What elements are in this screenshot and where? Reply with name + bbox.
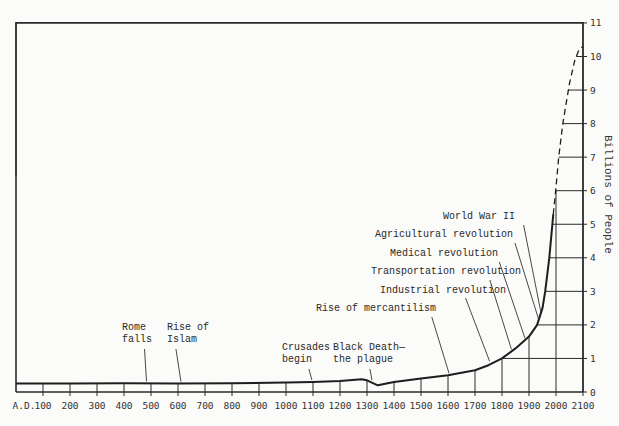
- annotation-leader-line: [176, 349, 181, 382]
- annotation-label: Romefalls: [122, 322, 152, 345]
- annotation-label: Industrial revolution: [380, 285, 506, 296]
- x-tick-label: 1400: [383, 400, 406, 411]
- x-tick-label: 1300: [356, 400, 379, 411]
- y-tick-label: 6: [590, 185, 596, 196]
- x-tick-label: 1000: [275, 400, 298, 411]
- x-tick-label: 900: [250, 400, 267, 411]
- y-axis-label: Billions of People: [602, 135, 614, 254]
- x-tick-label: 1200: [329, 400, 352, 411]
- y-tick-label: 10: [590, 51, 602, 62]
- y-tick-label: 11: [590, 17, 602, 28]
- annotation-label: Crusadesbegin: [282, 342, 330, 365]
- annotation-leader-line: [466, 298, 490, 361]
- x-axis: A.D.100200300400500600700800900100011001…: [13, 392, 595, 411]
- x-tick-label: A.D.: [13, 400, 36, 411]
- x-tick-label: 2100: [572, 400, 595, 411]
- x-tick-label: 400: [115, 400, 132, 411]
- x-tick-label: 1700: [464, 400, 487, 411]
- population-chart: RomefallsRise ofIslamCrusadesbeginBlack …: [0, 0, 619, 426]
- annotations: RomefallsRise ofIslamCrusadesbeginBlack …: [122, 211, 541, 382]
- x-tick-label: 2000: [545, 400, 568, 411]
- x-tick-label: 1900: [518, 400, 541, 411]
- y-tick-label: 1: [590, 353, 596, 364]
- annotation-label: World War II: [443, 211, 515, 222]
- x-tick-label: 300: [88, 400, 105, 411]
- annotation-label: Rise of mercantilism: [316, 303, 436, 314]
- annotation-label: Medical revolution: [390, 248, 498, 259]
- x-tick-label: 500: [142, 400, 159, 411]
- y-axis: 01234567891011: [583, 17, 602, 397]
- x-tick-label: 1600: [437, 400, 460, 411]
- annotation-label: Rise ofIslam: [167, 322, 209, 345]
- chart-frame: [16, 23, 583, 392]
- x-tick-label: 700: [196, 400, 213, 411]
- y-tick-label: 5: [590, 219, 596, 230]
- annotation-label: Transportation revolution: [371, 266, 521, 277]
- x-tick-label: 100: [34, 400, 51, 411]
- y-tick-label: 4: [590, 252, 596, 263]
- annotation-leader-line: [309, 369, 312, 380]
- x-tick-label: 1800: [491, 400, 514, 411]
- annotation-label: Black Death—the plague: [333, 342, 406, 365]
- y-tick-label: 2: [590, 319, 596, 330]
- y-tick-label: 0: [590, 387, 596, 398]
- y-tick-label: 9: [590, 85, 596, 96]
- annotation-label: Agricultural revolution: [375, 229, 513, 240]
- x-tick-label: 800: [223, 400, 240, 411]
- projected-population-line: [553, 46, 583, 214]
- x-tick-label: 200: [61, 400, 78, 411]
- y-tick-label: 7: [590, 152, 596, 163]
- y-tick-label: 3: [590, 286, 596, 297]
- x-tick-label: 1100: [302, 400, 325, 411]
- x-tick-label: 1500: [410, 400, 433, 411]
- y-tick-label: 8: [590, 118, 596, 129]
- annotation-leader-line: [370, 369, 372, 380]
- x-tick-label: 600: [169, 400, 186, 411]
- annotation-leader-line: [145, 349, 147, 381]
- annotation-leader-line: [432, 317, 449, 373]
